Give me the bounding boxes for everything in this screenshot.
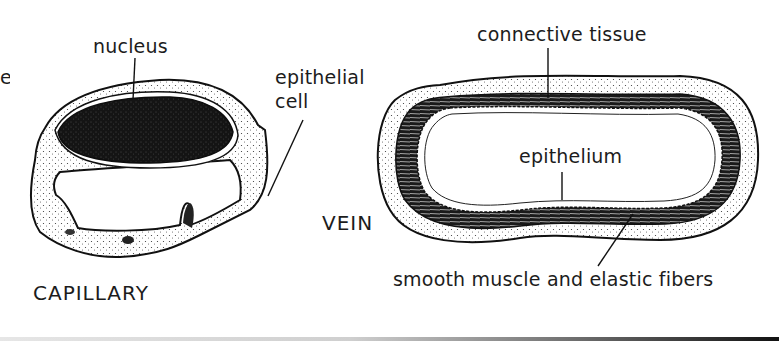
epithelial-cell-label-line1: epithelial (275, 66, 365, 88)
epithelial-cell-label-line2: cell (275, 90, 309, 112)
epithelial-cell-leader-line (268, 120, 303, 196)
epithelium-label: epithelium (519, 145, 622, 167)
nucleus-label: nucleus (93, 35, 168, 57)
capillary-illustration (31, 80, 267, 257)
truncated-label: e (0, 66, 10, 88)
vein-title: VEIN (322, 212, 373, 234)
smooth-muscle-label: smooth muscle and elastic fibers (393, 268, 713, 290)
page-edge-shadow (0, 337, 779, 341)
capillary-title: CAPILLARY (33, 282, 149, 304)
connective-tissue-label: connective tissue (477, 23, 647, 45)
